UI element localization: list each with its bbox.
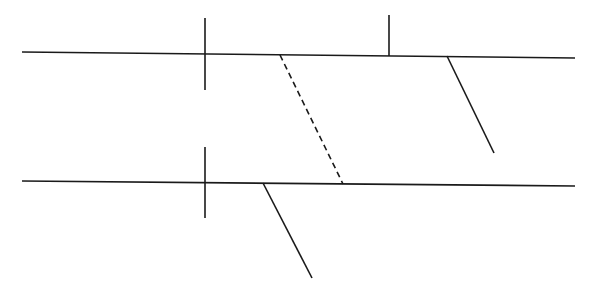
- geometry-diagram: [0, 0, 589, 287]
